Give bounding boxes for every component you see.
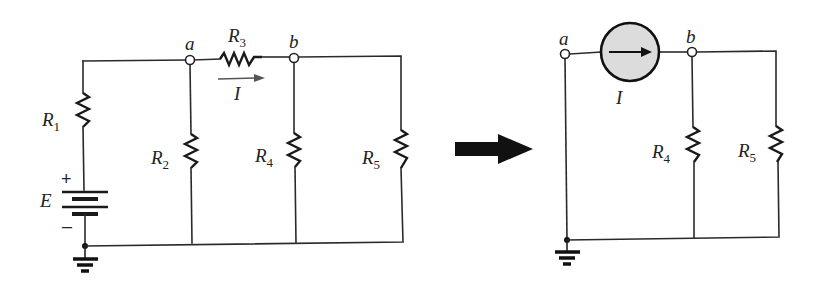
ground-icon — [555, 240, 580, 264]
r2-label: R2 — [150, 147, 169, 172]
r1-label: R1 — [41, 109, 60, 134]
resistor-r3 — [220, 53, 262, 65]
resistor-r4 — [687, 127, 699, 162]
wire-r2-bottom — [191, 168, 192, 243]
resistor-r5 — [395, 130, 407, 168]
battery-e-label: E — [39, 190, 52, 211]
wire-r4-bottom — [295, 167, 296, 243]
wire-a-ground — [565, 59, 567, 240]
battery-minus-sign: – — [62, 216, 72, 236]
node-b-label: b — [686, 26, 696, 47]
node-a-label: a — [185, 33, 195, 54]
battery-plus-sign: + — [61, 169, 72, 189]
r4-label: R4 — [651, 141, 671, 166]
node-b-terminal — [290, 54, 299, 63]
ground-icon — [73, 246, 98, 271]
right-circuit: a b I R4 R5 — [555, 23, 782, 264]
r3-label: R3 — [227, 25, 246, 50]
wire-a-r3 — [193, 59, 220, 60]
node-a-terminal — [186, 56, 195, 65]
node-a-label: a — [559, 28, 569, 49]
wire-a-source — [570, 52, 601, 54]
node-b-terminal — [688, 48, 697, 57]
wire-bottom — [85, 168, 403, 246]
resistor-r1 — [77, 93, 89, 127]
battery-e — [62, 192, 108, 214]
wire-bottom — [567, 162, 779, 240]
current-label: I — [233, 83, 242, 104]
current-source-label: I — [615, 87, 624, 108]
node-b-label: b — [289, 31, 299, 52]
wire-r4-top — [692, 57, 693, 127]
left-circuit: a b R3 I R1 R2 R4 R5 + E – — [39, 25, 407, 271]
wire-top-left — [83, 60, 187, 61]
right-arrow-icon — [455, 134, 533, 164]
wire-top-right — [697, 51, 776, 126]
r5-label: R5 — [361, 147, 380, 172]
wire-top-right — [298, 56, 401, 130]
resistor-r2 — [185, 134, 197, 168]
wire-r2-top — [190, 64, 191, 134]
r5-label: R5 — [737, 140, 756, 165]
circuit-diagram: a b R3 I R1 R2 R4 R5 + E – — [0, 0, 816, 284]
r4-label: R4 — [254, 145, 274, 170]
wire-r1-battery — [83, 127, 84, 190]
resistor-r4 — [288, 133, 300, 167]
current-arrow-icon — [218, 74, 265, 82]
node-a-terminal — [561, 50, 570, 59]
resistor-r5 — [770, 126, 782, 162]
